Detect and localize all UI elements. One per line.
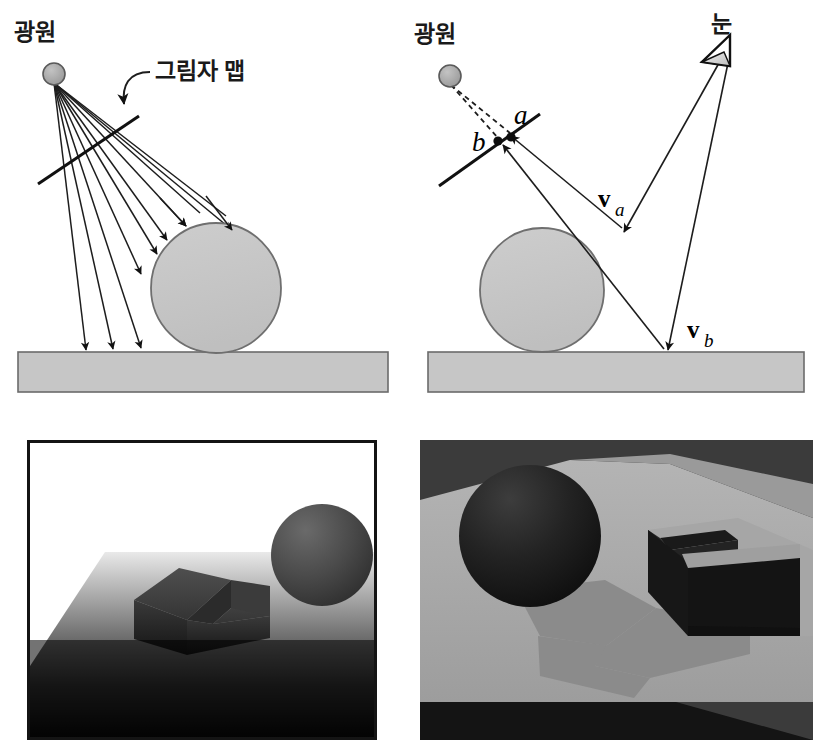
render-content: [420, 440, 813, 740]
label-shadow-map: 그림자 맵: [155, 58, 245, 84]
panel-shadow-map-generation: 광원 그림자 맵: [0, 0, 406, 420]
figure-root: 광원 그림자 맵: [0, 0, 813, 753]
label-light-source: 광원: [14, 19, 56, 45]
eye-rays: [624, 63, 728, 350]
depth-map-render-svg: [27, 440, 377, 740]
eye-ray-va: [624, 63, 719, 232]
render-sphere: [459, 465, 601, 607]
render-content: [30, 443, 374, 737]
light-source-icon: [439, 65, 461, 87]
light-ray: [54, 83, 86, 350]
scene-sphere: [480, 228, 604, 352]
light-source-icon: [43, 63, 65, 85]
label-vector-b-symbol: v: [687, 316, 700, 343]
shadow-map-line: [38, 116, 139, 184]
shadow-map-generation-svg: 광원 그림자 맵: [0, 0, 406, 420]
render-depth-falloff: [30, 640, 374, 737]
light-ray: [54, 83, 157, 254]
eye-ray-vb: [668, 63, 728, 350]
label-vector-a: v a: [598, 185, 625, 220]
panel-shadowed-scene-render: [420, 440, 813, 740]
ground-slab: [18, 352, 388, 392]
label-point-a: a: [514, 100, 528, 130]
ray-a-to-map: [511, 136, 622, 228]
label-vector-b-subscript: b: [704, 330, 714, 351]
panel-shadow-map-lookup: 광원 눈 a b v a v b: [406, 0, 813, 420]
label-eye: 눈: [711, 11, 732, 37]
dashed-light-ray: [451, 85, 510, 133]
callout-arrow-icon: [124, 72, 150, 104]
scene-sphere: [151, 223, 281, 353]
ground-slab: [428, 352, 804, 392]
label-vector-a-subscript: a: [615, 199, 625, 220]
label-light-source: 광원: [414, 21, 456, 47]
shadowed-scene-render-svg: [420, 440, 813, 740]
eye-icon: [702, 35, 730, 66]
render-sphere: [271, 504, 373, 606]
light-ray: [54, 83, 141, 274]
label-vector-b: v b: [687, 316, 714, 351]
light-ray: [160, 198, 186, 226]
panel-depth-map-render: [27, 440, 377, 740]
label-vector-a-symbol: v: [598, 185, 611, 212]
point-a-marker: [506, 132, 515, 141]
shadow-map-lookup-svg: 광원 눈 a b v a v b: [406, 0, 813, 420]
label-point-b: b: [472, 127, 486, 157]
point-b-marker: [493, 136, 502, 145]
